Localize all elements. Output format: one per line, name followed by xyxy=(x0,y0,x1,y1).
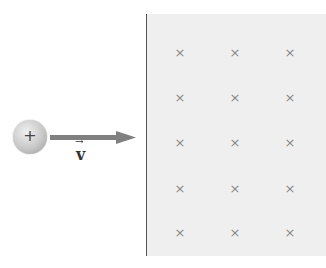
field-into-page-x-icon: × xyxy=(229,137,241,149)
field-into-page-x-icon: × xyxy=(229,47,241,59)
plus-sign: + xyxy=(13,120,47,154)
field-into-page-x-icon: × xyxy=(284,47,296,59)
field-into-page-x-icon: × xyxy=(229,183,241,195)
field-into-page-x-icon: × xyxy=(284,183,296,195)
field-into-page-x-icon: × xyxy=(174,47,186,59)
positive-charge: + xyxy=(13,120,47,154)
field-into-page-x-icon: × xyxy=(284,137,296,149)
field-into-page-x-icon: × xyxy=(174,183,186,195)
velocity-label: → v xyxy=(76,145,85,164)
field-into-page-x-icon: × xyxy=(229,92,241,104)
vector-arrow: → xyxy=(75,136,83,147)
field-into-page-x-icon: × xyxy=(174,92,186,104)
field-into-page-x-icon: × xyxy=(174,137,186,149)
field-into-page-x-icon: × xyxy=(284,227,296,239)
velocity-arrow-icon xyxy=(50,131,136,145)
field-into-page-x-icon: × xyxy=(229,227,241,239)
field-into-page-x-icon: × xyxy=(284,92,296,104)
field-into-page-x-icon: × xyxy=(174,227,186,239)
